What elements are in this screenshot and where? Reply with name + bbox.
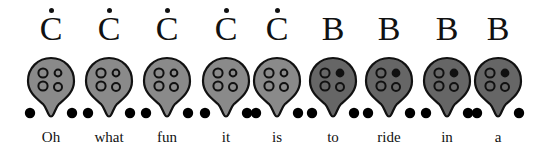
hole-bottom-right xyxy=(170,83,178,91)
hole-top-left xyxy=(213,68,222,77)
ocarina-fingering-icon xyxy=(198,56,254,120)
hole-top-left xyxy=(154,68,163,77)
hole-top-left xyxy=(264,68,273,77)
note-letter: B xyxy=(303,10,363,48)
hole-bottom-left xyxy=(376,81,385,90)
thumb-hole-right xyxy=(405,108,415,118)
hole-top-left xyxy=(376,68,385,77)
thumb-hole-left xyxy=(141,108,151,118)
hole-bottom-left xyxy=(264,81,273,90)
thumb-hole-left xyxy=(83,108,93,118)
hole-bottom-left xyxy=(434,81,443,90)
hole-top-right xyxy=(337,70,344,77)
note-letter: B xyxy=(359,10,419,48)
hole-bottom-left xyxy=(485,81,494,90)
hole-bottom-right xyxy=(229,83,237,91)
ocarina-fingering-icon xyxy=(305,56,361,120)
hole-bottom-right xyxy=(280,83,288,91)
thumb-hole-left xyxy=(307,108,317,118)
hole-top-right xyxy=(55,70,62,77)
ocarina-fingering-icon xyxy=(419,56,475,120)
thumb-hole-right xyxy=(349,108,359,118)
thumb-hole-left xyxy=(421,108,431,118)
hole-top-right xyxy=(502,70,509,77)
ocarina-fingering-icon xyxy=(81,56,137,120)
thumb-hole-right xyxy=(183,108,193,118)
hole-top-right xyxy=(281,70,288,77)
hole-bottom-left xyxy=(213,81,222,90)
note-letter: B xyxy=(468,10,528,48)
hole-bottom-left xyxy=(38,81,47,90)
hole-bottom-right xyxy=(392,83,400,91)
thumb-hole-left xyxy=(251,108,261,118)
hole-top-right xyxy=(171,70,178,77)
thumb-hole-right xyxy=(67,108,77,118)
note-letter: C xyxy=(79,10,139,48)
thumb-hole-left xyxy=(363,108,373,118)
hole-top-left xyxy=(485,68,494,77)
hole-bottom-right xyxy=(54,83,62,91)
hole-top-left xyxy=(38,68,47,77)
ocarina-fingering-icon xyxy=(23,56,79,120)
hole-bottom-right xyxy=(112,83,120,91)
hole-bottom-left xyxy=(154,81,163,90)
hole-top-right xyxy=(230,70,237,77)
hole-bottom-left xyxy=(320,81,329,90)
ocarina-fingering-icon xyxy=(249,56,305,120)
thumb-hole-right xyxy=(514,108,524,118)
lyric-word: a xyxy=(458,128,538,146)
hole-top-right xyxy=(451,70,458,77)
thumb-hole-left xyxy=(200,108,210,118)
ocarina-fingering-icon xyxy=(470,56,526,120)
ocarina-fingering-icon xyxy=(139,56,195,120)
hole-bottom-left xyxy=(96,81,105,90)
hole-top-right xyxy=(113,70,120,77)
hole-top-right xyxy=(393,70,400,77)
note-column-8: B a xyxy=(468,0,528,154)
thumb-hole-right xyxy=(125,108,135,118)
hole-bottom-right xyxy=(336,83,344,91)
note-letter: C xyxy=(137,10,197,48)
thumb-hole-left xyxy=(472,108,482,118)
note-letter: C xyxy=(21,10,81,48)
note-letter: C xyxy=(247,10,307,48)
hole-top-left xyxy=(320,68,329,77)
thumb-hole-left xyxy=(25,108,35,118)
ocarina-fingering-icon xyxy=(361,56,417,120)
thumb-hole-right xyxy=(293,108,303,118)
hole-top-left xyxy=(96,68,105,77)
hole-top-left xyxy=(434,68,443,77)
hole-bottom-right xyxy=(501,83,509,91)
hole-bottom-right xyxy=(450,83,458,91)
